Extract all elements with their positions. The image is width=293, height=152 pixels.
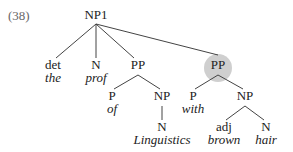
node-np-brown-hair: NP: [237, 89, 254, 102]
node-np1-root: NP1: [84, 8, 107, 21]
example-number: (38): [8, 8, 30, 24]
word-of: of: [107, 102, 117, 115]
node-pp-with-highlighted: PP: [211, 58, 225, 71]
node-pp-of: PP: [131, 58, 145, 71]
word-brown: brown: [208, 133, 241, 146]
word-hair: hair: [255, 133, 277, 146]
word-the: the: [45, 71, 61, 84]
word-with: with: [182, 102, 204, 115]
node-np-linguistics: NP: [154, 89, 171, 102]
word-prof: prof: [85, 71, 106, 84]
tree-edges: [0, 0, 293, 152]
word-linguistics: Linguistics: [133, 133, 190, 146]
